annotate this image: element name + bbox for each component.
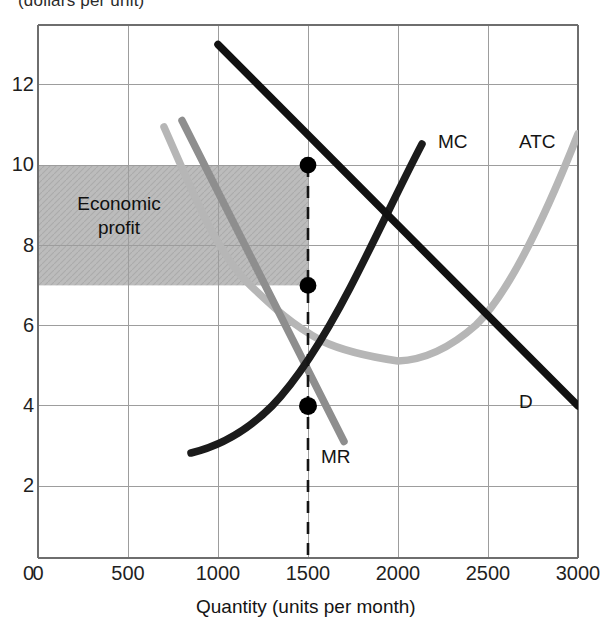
ytick-12: 12 — [0, 73, 34, 96]
ytick-4: 4 — [0, 394, 34, 417]
atc-at-output-point — [300, 277, 317, 294]
ytick-8: 8 — [0, 234, 34, 257]
chart-figure: (dollars per unit) — [0, 0, 608, 633]
mc-curve-label: MC — [438, 131, 468, 153]
x-axis-label: Quantity (units per month) — [196, 596, 416, 618]
demand-curve-label: D — [519, 391, 533, 413]
atc-curve-label: ATC — [519, 131, 556, 153]
ytick-6: 6 — [0, 314, 34, 337]
chart-canvas — [0, 0, 608, 633]
economic-profit-label: Economic profit — [32, 192, 206, 241]
mc-equals-mr-point — [299, 397, 317, 415]
price-output-point — [300, 157, 317, 174]
mr-curve-label: MR — [321, 446, 351, 468]
ytick-2: 2 — [0, 474, 34, 497]
ytick-10: 10 — [0, 153, 34, 176]
xtick-1500: 1500 — [278, 562, 338, 585]
xtick-1000: 1000 — [188, 562, 248, 585]
xtick-2500: 2500 — [458, 562, 518, 585]
xtick-2000: 2000 — [368, 562, 428, 585]
xtick-0: 0 — [8, 562, 68, 585]
xtick-3000: 3000 — [548, 562, 608, 585]
xtick-500: 500 — [98, 562, 158, 585]
